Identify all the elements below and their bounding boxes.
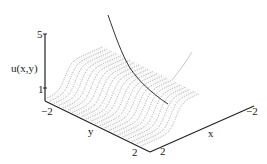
x-axis-line bbox=[150, 106, 254, 152]
x-tick-label-near: 2 bbox=[160, 146, 166, 157]
z-tick-label-top: 5 bbox=[37, 29, 43, 40]
z-axis-label: u(x,y) bbox=[11, 63, 38, 74]
y-axis-line bbox=[45, 101, 150, 152]
z-tick-label-bottom: 1 bbox=[38, 84, 44, 95]
dark-curve bbox=[108, 15, 168, 104]
y-tick-label-right: 2 bbox=[132, 147, 138, 158]
y-tick-label-left: −2 bbox=[41, 106, 53, 117]
x-tick-label-far: −2 bbox=[246, 106, 258, 117]
surface-mesh bbox=[45, 47, 199, 146]
light-curve bbox=[172, 52, 192, 80]
x-axis-label: x bbox=[208, 128, 214, 139]
surface-plot bbox=[0, 0, 267, 164]
y-axis-label: y bbox=[88, 126, 94, 137]
